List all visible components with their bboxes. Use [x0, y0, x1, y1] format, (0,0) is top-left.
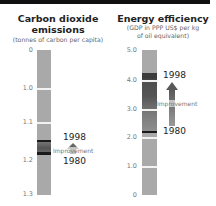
co2-improvement-label: Improvement [53, 147, 93, 154]
energy-improvement-label: Improvement [157, 100, 197, 107]
energy-year-1998: 1998 [163, 70, 186, 80]
co2-mark-1980 [37, 152, 51, 155]
energy-subtitle-line1: (GDP in PPP US$ per kg [112, 24, 214, 32]
energy-divider-2 [142, 137, 157, 139]
energy-divider-4 [142, 80, 157, 82]
top-rule [0, 0, 210, 4]
energy-year-1980: 1980 [163, 126, 186, 136]
co2-tick-1: 1.0 [13, 84, 33, 92]
co2-divider-2 [37, 122, 51, 124]
co2-tick-3: 1.2 [13, 156, 33, 164]
co2-year-1998: 1998 [63, 132, 86, 142]
co2-mark-1998 [37, 140, 51, 142]
co2-subtitle: (tonnes of carbon per capita) [4, 36, 112, 44]
co2-tick-4: 1.3 [13, 190, 33, 198]
co2-tick-0: 0 [13, 46, 33, 54]
energy-divider-1 [142, 166, 157, 168]
energy-mark-1980 [142, 131, 157, 133]
energy-subtitle: (GDP in PPP US$ per kg of oil equivalent… [112, 24, 214, 40]
energy-tick-2: 2.0 [117, 133, 137, 141]
co2-title-line1: Carbon dioxide [14, 13, 102, 24]
energy-divider-3 [142, 109, 157, 111]
energy-tick-0: 0 [117, 191, 137, 199]
co2-title: Carbon dioxide emissions [14, 13, 102, 35]
energy-change-band [142, 73, 157, 131]
co2-title-line2: emissions [14, 24, 102, 35]
energy-tick-3: 3.0 [117, 105, 137, 113]
energy-tick-4: 4.0 [117, 76, 137, 84]
energy-arrow-up-icon [166, 82, 178, 90]
co2-year-1980: 1980 [63, 156, 86, 166]
energy-tick-5: 5.0 [117, 46, 137, 54]
energy-tick-1: 1.0 [117, 162, 137, 170]
energy-arrow-shaft [169, 90, 175, 126]
energy-title: Energy efficiency [116, 13, 210, 24]
energy-subtitle-line2: of oil equivalent) [112, 32, 214, 40]
co2-tick-2: 1.1 [13, 118, 33, 126]
co2-divider-1 [37, 88, 51, 90]
